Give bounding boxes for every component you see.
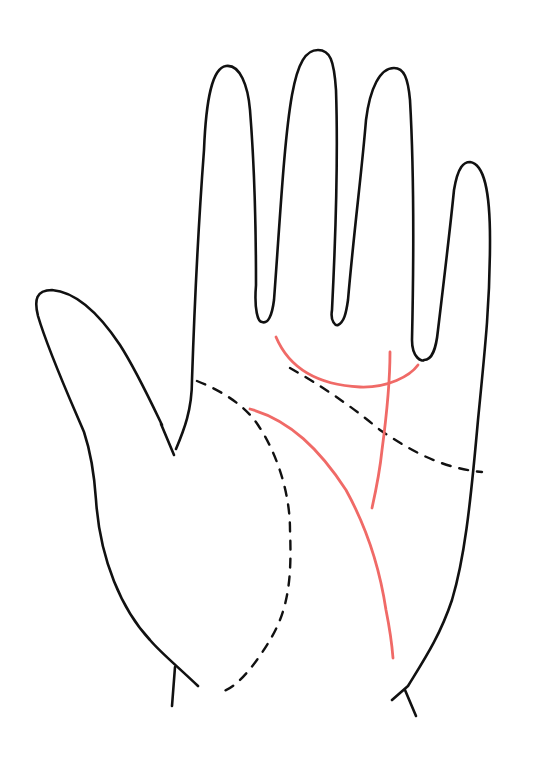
- wrist-left-tick: [172, 667, 175, 706]
- curved-arc-under-fingers: [276, 337, 418, 387]
- thumb-joint: [161, 424, 174, 455]
- hand-outline: [176, 50, 490, 700]
- wrist-right-tick: [405, 690, 416, 716]
- thumb-outline: [36, 290, 198, 686]
- palm-diagram: palm line diagram: [0, 0, 552, 762]
- long-curved-line: [250, 409, 393, 658]
- head-line-dashed: [197, 381, 290, 691]
- hand-illustration: [0, 0, 552, 762]
